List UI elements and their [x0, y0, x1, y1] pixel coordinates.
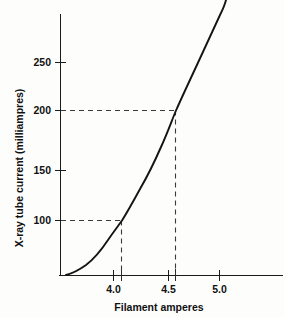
x-axis-title: Filament amperes: [114, 301, 203, 313]
x-tick-label-4-5: 4.5: [161, 283, 176, 295]
y-axis-title: X-ray tube current (milliampres): [13, 89, 25, 248]
y-tick-label-150: 150: [33, 164, 51, 176]
chart-canvas: 250 200 150 100 4.0 4.5 5.0: [0, 0, 284, 318]
x-tick-label-5-0: 5.0: [212, 283, 227, 295]
y-tick-label-100: 100: [33, 214, 51, 226]
y-tick-label-200: 200: [33, 104, 51, 116]
plot-background: [0, 0, 284, 318]
y-tick-label-250: 250: [33, 56, 51, 68]
figure-container: 250 200 150 100 4.0 4.5 5.0: [0, 0, 284, 318]
x-tick-label-4-0: 4.0: [106, 283, 121, 295]
